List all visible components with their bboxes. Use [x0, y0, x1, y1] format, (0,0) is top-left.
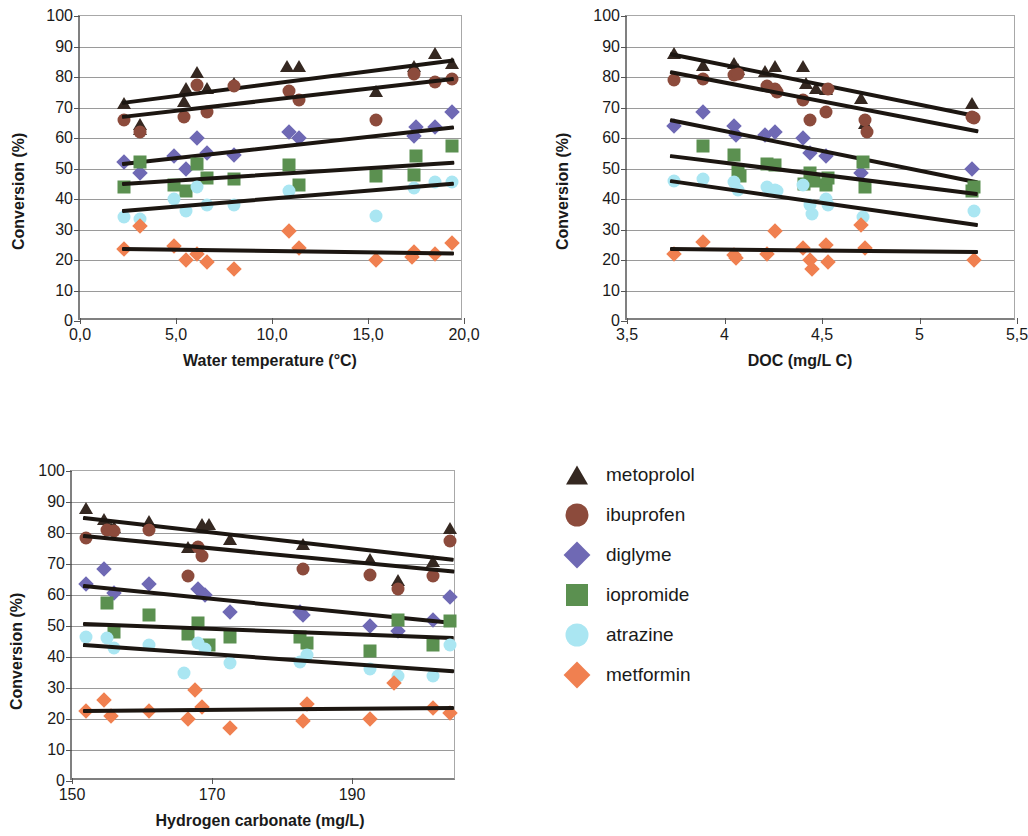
y-axis-tick-label: 10: [47, 741, 65, 759]
data-point-iopromide: [426, 638, 439, 651]
data-point-iopromide: [446, 139, 459, 152]
y-axis-tick: [66, 471, 72, 472]
legend-item-diglyme[interactable]: diglyme: [560, 535, 960, 575]
y-axis-tick-label: 20: [602, 251, 620, 269]
trendline-metformin: [670, 247, 978, 254]
legend-item-ibuprofen[interactable]: ibuprofen: [560, 495, 960, 535]
y-axis-tick: [621, 138, 627, 139]
legend-item-iopromide[interactable]: iopromide: [560, 575, 960, 615]
y-axis-tick-label: 40: [47, 648, 65, 666]
y-axis-tick-label: 10: [55, 282, 73, 300]
data-point-metformin: [281, 223, 297, 239]
data-point-diglyme: [222, 604, 238, 620]
legend-marker-circle-icon: [560, 500, 594, 530]
y-axis-tick: [74, 230, 80, 231]
y-axis-tick-label: 50: [47, 617, 65, 635]
x-axis-label: Water temperature (°C): [40, 352, 500, 370]
x-axis-tick-label: 5,5: [1006, 326, 1028, 344]
data-point-ibuprofen: [408, 67, 421, 80]
circle-light-glyph: [566, 624, 589, 647]
data-point-ibuprofen: [968, 112, 981, 125]
legend-item-metoprolol[interactable]: metoprolol: [560, 455, 960, 495]
data-point-diglyme: [362, 618, 378, 634]
x-axis-tick-label: 0,0: [69, 326, 91, 344]
y-axis-tick-label: 40: [55, 190, 73, 208]
y-axis-tick: [621, 199, 627, 200]
legend-label: metformin: [606, 664, 690, 686]
data-point-ibuprofen: [804, 113, 817, 126]
data-point-metformin: [187, 682, 203, 698]
legend-marker-circle-light-icon: [560, 620, 594, 650]
x-axis-tick-label: 3,5: [616, 326, 638, 344]
legend-item-atrazine[interactable]: atrazine: [560, 615, 960, 655]
chart-panel-water-temperature: Conversion (%) 01020304050607080901000,0…: [0, 0, 520, 400]
chart-legend: metoprololibuprofendiglymeiopromideatraz…: [560, 455, 960, 775]
gridline: [627, 169, 1014, 170]
triangle-glyph: [566, 466, 588, 485]
y-axis-tick: [621, 291, 627, 292]
data-point-ibuprofen: [191, 78, 204, 91]
gridline: [72, 688, 454, 689]
trendline-ibuprofen: [670, 70, 979, 133]
data-point-diglyme: [442, 589, 458, 605]
data-point-ibuprofen: [227, 80, 240, 93]
y-axis-tick: [621, 108, 627, 109]
data-point-atrazine: [223, 657, 236, 670]
y-axis-tick: [621, 16, 627, 17]
data-point-ibuprofen: [444, 534, 457, 547]
data-point-metoprolol: [202, 518, 216, 530]
data-point-ibuprofen: [297, 562, 310, 575]
data-point-ibuprofen: [821, 83, 834, 96]
x-axis-tick-label: 4,5: [811, 326, 833, 344]
y-axis-tick: [621, 260, 627, 261]
y-axis-tick: [74, 108, 80, 109]
data-point-iopromide: [444, 615, 457, 628]
x-axis-label: DOC (mg/L C): [580, 352, 1020, 370]
x-axis-tick: [1017, 318, 1018, 324]
y-axis-tick: [74, 169, 80, 170]
data-point-ibuprofen: [732, 67, 745, 80]
data-point-metformin: [180, 711, 196, 727]
y-axis-tick: [66, 657, 72, 658]
y-axis-tick: [66, 595, 72, 596]
y-axis-tick: [66, 688, 72, 689]
y-axis-tick: [66, 502, 72, 503]
plot-area: 01020304050607080901000,05,010,015,020,0: [78, 15, 462, 320]
x-axis-tick: [920, 318, 921, 324]
y-axis-tick: [74, 77, 80, 78]
y-axis-tick-label: 30: [55, 221, 73, 239]
legend-item-metformin[interactable]: metformin: [560, 655, 960, 695]
y-axis-tick: [621, 47, 627, 48]
y-axis-tick-label: 90: [47, 493, 65, 511]
plot-area: 0102030405060708090100150170190: [70, 470, 455, 780]
x-axis-tick-label: 170: [199, 786, 226, 804]
y-axis-tick-label: 60: [47, 586, 65, 604]
y-axis-tick-label: 60: [55, 129, 73, 147]
gridline: [80, 108, 461, 109]
y-axis-tick-label: 70: [55, 99, 73, 117]
data-point-atrazine: [191, 180, 204, 193]
legend-label: metoprolol: [606, 464, 695, 486]
data-point-atrazine: [796, 179, 809, 192]
legend-marker-diamond-icon: [560, 540, 594, 570]
data-point-ibuprofen: [858, 113, 871, 126]
legend-marker-diamond-orange-icon: [560, 660, 594, 690]
data-point-iopromide: [697, 139, 710, 152]
data-point-ibuprofen: [819, 106, 832, 119]
gridline: [627, 291, 1014, 292]
data-point-metformin: [362, 711, 378, 727]
x-axis-tick-label: 20,0: [448, 326, 479, 344]
data-point-iopromide: [728, 148, 741, 161]
data-point-metformin: [295, 713, 311, 729]
data-point-iopromide: [410, 150, 423, 163]
x-axis-tick-label: 5: [915, 326, 924, 344]
data-point-metoprolol: [428, 47, 442, 59]
y-axis-tick: [621, 230, 627, 231]
data-point-iopromide: [133, 156, 146, 169]
data-point-metformin: [222, 721, 238, 737]
plot-area: 01020304050607080901003,544,555,5: [625, 15, 1015, 320]
legend-label: ibuprofen: [606, 504, 685, 526]
legend-label: iopromide: [606, 584, 689, 606]
data-point-atrazine: [806, 208, 819, 221]
chart-panel-doc: Conversion (%) 01020304050607080901003,5…: [520, 0, 1028, 400]
